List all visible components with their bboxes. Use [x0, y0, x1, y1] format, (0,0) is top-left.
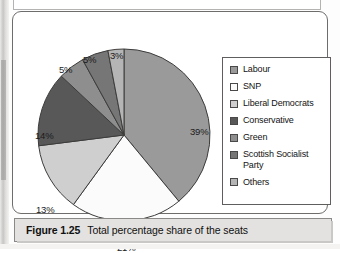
scan-edge-artifact-shadow	[1, 60, 6, 180]
legend-item-label: Scottish Socialist Party	[243, 149, 330, 170]
legend-swatch-icon	[230, 178, 238, 186]
scan-edge-artifact-bottom	[0, 244, 340, 249]
legend-item-label: Labour	[243, 64, 270, 75]
legend-item-liberal-democrats: Liberal Democrats	[230, 98, 330, 109]
legend-item-snp: SNP	[230, 81, 330, 92]
pie-slice-value-label: 5%	[59, 64, 72, 75]
legend-item-others: Others	[230, 177, 330, 188]
legend-item-label: SNP	[243, 81, 261, 92]
legend-swatch-icon	[230, 134, 238, 142]
legend-swatch-icon	[230, 151, 238, 159]
legend-swatch-icon	[230, 117, 238, 125]
figure-caption-text: Total percentage share of the seats	[87, 224, 248, 236]
pie-slice-value-label: 3%	[110, 50, 123, 61]
legend-item-green: Green	[230, 132, 330, 143]
legend-item-label: Others	[243, 177, 269, 188]
legend-swatch-icon	[230, 100, 238, 108]
figure-caption-label: Figure 1.25	[26, 224, 80, 236]
legend-item-scottish-socialist-party: Scottish Socialist Party	[230, 149, 330, 170]
legend-item-labour: Labour	[230, 64, 330, 75]
pie-slice-value-label: 13%	[36, 204, 54, 215]
legend-item-conservative: Conservative	[230, 115, 330, 126]
pie-chart: 39%21%13%14%5%5%3%	[35, 46, 213, 224]
pie-slice-value-label: 39%	[190, 126, 208, 137]
legend-swatch-icon	[230, 83, 238, 91]
figure-caption-bar: Figure 1.25 Total percentage share of th…	[14, 218, 332, 242]
pie-slice-value-label: 14%	[35, 130, 53, 141]
clipped-box-above-figure	[13, 0, 321, 10]
legend-item-label: Green	[243, 132, 267, 143]
chart-legend: LabourSNPLiberal DemocratsConservativeGr…	[222, 57, 331, 205]
legend-item-label: Liberal Democrats	[243, 98, 313, 109]
legend-swatch-icon	[230, 66, 238, 74]
legend-item-label: Conservative	[243, 115, 294, 126]
figure-panel: 39%21%13%14%5%5%3% LabourSNPLiberal Demo…	[12, 11, 328, 214]
pie-slice-value-label: 5%	[83, 54, 96, 65]
